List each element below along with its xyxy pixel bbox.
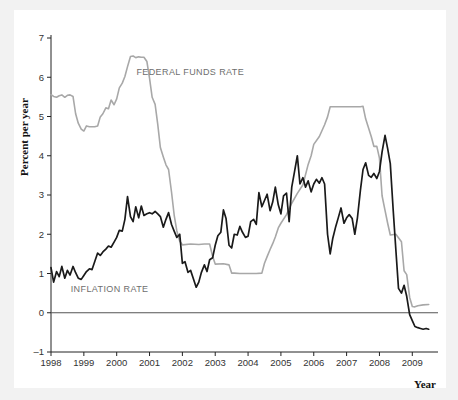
- x-axis-tick-label: 2002: [172, 357, 193, 368]
- y-axis-tick-label: 7: [39, 32, 44, 43]
- y-axis-tick-label: 2: [39, 229, 44, 240]
- chart-plot: 76543210–1199819992000200120022003200420…: [0, 0, 458, 400]
- x-axis-tick-label: 2007: [336, 357, 357, 368]
- x-axis-tick-label: 1999: [73, 357, 94, 368]
- y-axis-tick-label: 3: [39, 189, 44, 200]
- x-axis-tick-label: 2000: [106, 357, 127, 368]
- y-axis-title: Percent per year: [18, 98, 30, 176]
- x-axis-tick-label: 2008: [369, 357, 390, 368]
- x-axis-tick-label: 2006: [303, 357, 324, 368]
- x-axis-tick-label: 2004: [237, 357, 258, 368]
- series-annotation: INFLATION RATE: [71, 284, 149, 294]
- y-axis-tick-label: 5: [39, 111, 44, 122]
- x-axis-tick-label: 2009: [402, 357, 423, 368]
- y-axis-tick-label: 4: [39, 150, 44, 161]
- y-axis-tick-label: 1: [39, 268, 44, 279]
- x-axis-tick-label: 2003: [205, 357, 226, 368]
- y-axis-tick-label: –1: [33, 346, 44, 357]
- x-axis-tick-label: 2001: [139, 357, 160, 368]
- y-axis-tick-label: 6: [39, 72, 44, 83]
- series-annotation: FEDERAL FUNDS RATE: [136, 67, 244, 77]
- series-line-inflation-rate: [51, 135, 429, 329]
- x-axis-tick-label: 2005: [270, 357, 291, 368]
- x-axis-tick-label: 1998: [40, 357, 61, 368]
- y-axis-tick-label: 0: [39, 307, 44, 318]
- x-axis-title: Year: [414, 378, 436, 390]
- series-line-federal-funds-rate: [51, 56, 429, 307]
- figure-container: 76543210–1199819992000200120022003200420…: [0, 0, 458, 400]
